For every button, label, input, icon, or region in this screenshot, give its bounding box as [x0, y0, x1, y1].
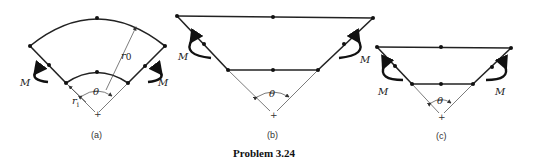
moment-label-left: M	[377, 86, 389, 97]
node	[64, 81, 68, 85]
moment-label-right: M	[494, 86, 506, 97]
node	[95, 16, 99, 20]
center-mark: +	[94, 109, 102, 119]
moment-label-right: M	[157, 77, 169, 88]
problem-title: Problem 3.24	[233, 147, 296, 159]
left-radial-line	[228, 70, 270, 111]
moment-label-left: M	[177, 51, 189, 62]
angle-label: θ	[269, 88, 275, 99]
node	[509, 46, 513, 50]
angle-label: θ	[93, 86, 99, 97]
moment-arrow-left-icon	[383, 66, 403, 80]
node	[316, 68, 320, 72]
node	[471, 82, 475, 86]
outer-radius-label: r0	[121, 50, 132, 62]
moment-label-right: M	[359, 54, 371, 65]
problem-figure: M M r0 ri θ + (a) M M θ + (b)	[0, 0, 535, 164]
center-mark: +	[438, 112, 446, 122]
node	[342, 42, 346, 46]
caption-b: (b)	[267, 130, 278, 140]
figure-b: M M θ + (b)	[175, 14, 375, 140]
caption-a: (a)	[91, 130, 102, 140]
right-radial-line	[277, 70, 318, 111]
node	[439, 82, 443, 86]
right-radial-line	[99, 83, 128, 112]
node	[490, 65, 494, 69]
node	[271, 68, 275, 72]
node	[271, 15, 275, 19]
node	[28, 44, 32, 48]
node	[439, 45, 443, 49]
node	[371, 16, 375, 20]
node	[175, 14, 179, 18]
node	[95, 70, 99, 74]
figure-c: M M θ + (c)	[375, 45, 513, 141]
left-radial-line	[412, 84, 439, 113]
inner-radius-label: ri	[72, 95, 80, 109]
figure-a: M M r0 ri θ + (a)	[19, 16, 169, 140]
right-radial-line	[444, 84, 473, 113]
node	[47, 63, 51, 67]
node	[393, 64, 397, 68]
node	[163, 44, 167, 48]
center-mark: +	[270, 110, 278, 120]
node	[202, 42, 206, 46]
moment-label-left: M	[19, 77, 31, 88]
node	[375, 45, 379, 49]
node	[410, 82, 414, 86]
angle-label: θ	[437, 95, 443, 106]
moment-arrow-right-icon	[339, 40, 361, 58]
outer-arc	[30, 19, 165, 46]
moment-arrow-left-icon	[35, 72, 49, 82]
node	[126, 81, 130, 85]
node	[143, 64, 147, 68]
top-edge	[377, 47, 511, 48]
caption-c: (c)	[436, 131, 447, 141]
inner-arc	[66, 73, 128, 84]
node	[226, 68, 230, 72]
